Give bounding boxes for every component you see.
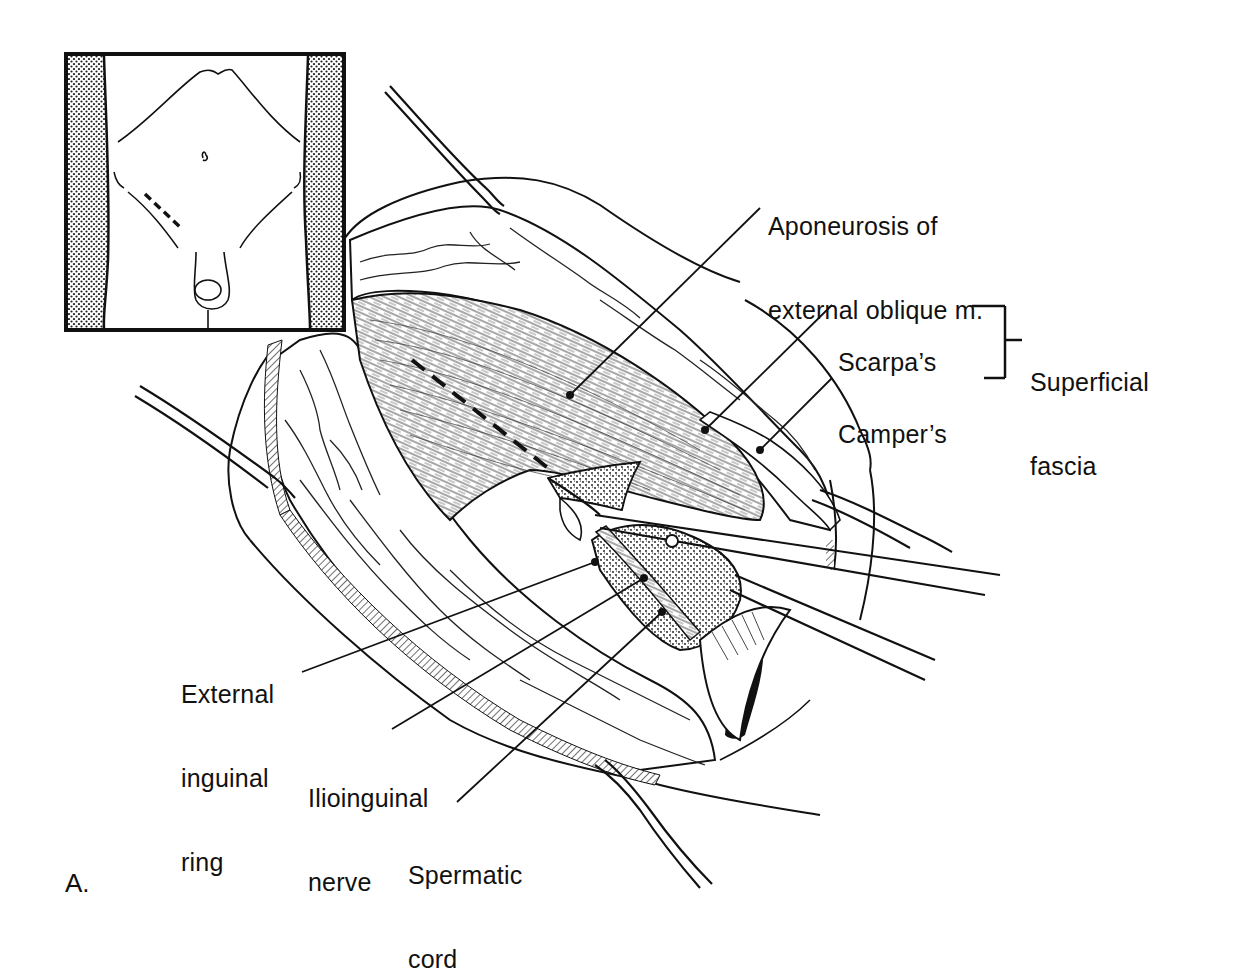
label-external-ring-line2: inguinal	[181, 764, 274, 792]
label-external-inguinal-ring: External inguinal ring	[181, 624, 274, 932]
label-camper-text: Camper’s	[838, 420, 947, 448]
label-spermatic-line2: cord	[408, 945, 522, 972]
scissors-screw	[666, 535, 678, 547]
panel-letter: A.	[65, 868, 90, 899]
label-spermatic-line1: Spermatic	[408, 861, 522, 889]
label-external-ring-line1: External	[181, 680, 274, 708]
inset-torso-diagram	[66, 54, 344, 330]
label-camper: Camper’s	[838, 364, 947, 504]
label-spermatic-cord: Spermatic cord	[408, 805, 522, 972]
retractor-upper	[385, 92, 500, 214]
label-superficial-fascia: Superficial fascia	[1030, 312, 1149, 536]
label-aponeurosis-line1: Aponeurosis of	[768, 212, 983, 240]
label-superficial-fascia-line1: Superficial	[1030, 368, 1149, 396]
label-external-ring-line3: ring	[181, 848, 274, 876]
label-superficial-fascia-line2: fascia	[1030, 452, 1149, 480]
